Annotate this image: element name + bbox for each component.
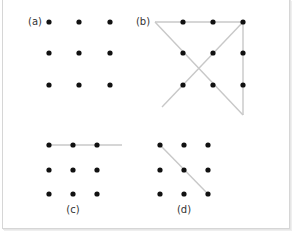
dot: [240, 19, 245, 24]
dot: [70, 191, 75, 196]
dot: [180, 50, 185, 55]
dot: [205, 191, 210, 196]
dot: [46, 191, 51, 196]
connecting-line: [162, 22, 243, 107]
dot: [70, 167, 75, 172]
panel-c-label: (c): [66, 204, 79, 215]
nine-dot-diagram: (a) (b) (c) (d): [0, 0, 297, 237]
dot: [157, 191, 162, 196]
dot: [157, 167, 162, 172]
dot: [94, 142, 99, 147]
dot: [210, 50, 215, 55]
dot: [76, 50, 81, 55]
dot: [157, 142, 162, 147]
dot: [210, 19, 215, 24]
panel-a-dots: [46, 19, 112, 87]
dot: [107, 82, 112, 87]
dot: [76, 82, 81, 87]
panel-b: (b): [136, 16, 246, 115]
dot: [240, 82, 245, 87]
dot: [76, 19, 81, 24]
dot: [205, 142, 210, 147]
dot: [46, 142, 51, 147]
dot: [210, 82, 215, 87]
dot: [181, 191, 186, 196]
dot: [180, 19, 185, 24]
dot: [107, 19, 112, 24]
dot: [94, 167, 99, 172]
panel-b-label: (b): [136, 16, 150, 27]
dot: [70, 142, 75, 147]
panel-c: (c): [46, 142, 122, 215]
dot: [46, 50, 51, 55]
dot: [181, 142, 186, 147]
dot: [205, 167, 210, 172]
dot: [46, 167, 51, 172]
dot: [180, 82, 185, 87]
dot: [181, 167, 186, 172]
dot: [94, 191, 99, 196]
panel-d: (d): [157, 142, 210, 215]
dot: [46, 82, 51, 87]
panel-b-lines: [155, 22, 243, 115]
panel-a-label: (a): [28, 16, 42, 27]
dot: [46, 19, 51, 24]
dot: [107, 50, 112, 55]
panel-a: (a): [28, 16, 113, 88]
panel-c-dots: [46, 142, 99, 196]
panel-d-label: (d): [177, 204, 191, 215]
dot: [240, 50, 245, 55]
